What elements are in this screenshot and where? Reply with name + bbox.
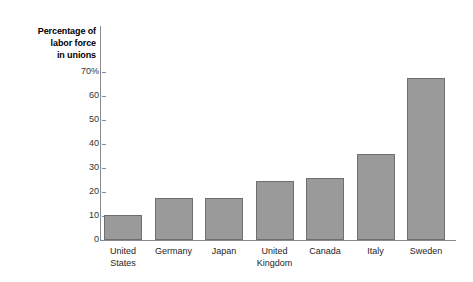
category-label-line: United	[249, 246, 300, 258]
y-tick-label: 10	[89, 210, 99, 220]
y-tick-label: 40	[89, 138, 99, 148]
category-label-line: Germany	[148, 246, 199, 258]
y-tick-40: 40	[60, 144, 106, 145]
bar-sweden	[407, 78, 445, 240]
x-axis-line	[100, 240, 456, 241]
y-tick-0: 0	[60, 240, 106, 241]
y-tick-mark	[102, 72, 106, 73]
y-tick-70: 70%	[60, 72, 106, 73]
category-label-united-kingdom: UnitedKingdom	[249, 246, 300, 269]
category-label-line: Canada	[300, 246, 351, 258]
y-tick-label: 60	[89, 90, 99, 100]
y-tick-mark	[102, 120, 106, 121]
y-axis-line	[100, 26, 101, 241]
bar-japan	[205, 198, 243, 240]
category-label-japan: Japan	[199, 246, 250, 258]
y-tick-60: 60	[60, 96, 106, 97]
y-tick-label: 30	[89, 162, 99, 172]
y-tick-mark	[102, 168, 106, 169]
bar-italy	[357, 154, 395, 240]
bar-germany	[155, 198, 193, 240]
y-tick-mark	[102, 144, 106, 145]
y-tick-label: 20	[89, 186, 99, 196]
category-label-line: States	[98, 258, 149, 270]
category-label-united-states: UnitedStates	[98, 246, 149, 269]
y-tick-30: 30	[60, 168, 106, 169]
plot-area: 010203040506070% UnitedStatesGermanyJapa…	[0, 0, 473, 282]
category-label-sweden: Sweden	[401, 246, 452, 258]
y-tick-label: 0	[94, 234, 99, 244]
category-label-italy: Italy	[350, 246, 401, 258]
bar-canada	[306, 178, 344, 240]
y-tick-label: 50	[89, 114, 99, 124]
y-tick-10: 10	[60, 216, 106, 217]
category-label-line: United	[98, 246, 149, 258]
bar-chart-figure: Percentage of labor force in unions 0102…	[0, 0, 473, 282]
y-tick-mark	[102, 96, 106, 97]
bar-united-kingdom	[256, 181, 294, 240]
y-tick-mark	[102, 192, 106, 193]
category-label-germany: Germany	[148, 246, 199, 258]
y-tick-mark	[102, 240, 106, 241]
category-label-line: Japan	[199, 246, 250, 258]
y-tick-label: 70%	[81, 66, 99, 76]
category-label-line: Kingdom	[249, 258, 300, 270]
bar-united-states	[104, 215, 142, 240]
category-label-canada: Canada	[300, 246, 351, 258]
category-label-line: Italy	[350, 246, 401, 258]
y-tick-50: 50	[60, 120, 106, 121]
y-tick-20: 20	[60, 192, 106, 193]
category-label-line: Sweden	[401, 246, 452, 258]
